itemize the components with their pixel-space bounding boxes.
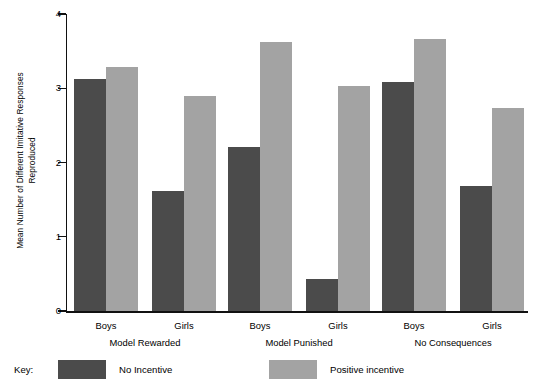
plot-area: 01234 [66,14,528,311]
bar-no-consequences-girls-positive-incentive [492,108,524,311]
y-tick-label: 1 [56,232,61,242]
chart-legend: Key: No IncentivePositive incentive [14,360,524,384]
bar-model-rewarded-girls-positive-incentive [184,96,216,311]
y-tick-label: 3 [56,83,61,93]
legend-key-label: Key: [14,365,33,375]
bar-model-punished-boys-no-incentive [228,147,260,311]
legend-item-no-incentive: No Incentive [58,360,172,379]
x-axis-group-label: No Consequences [414,338,491,347]
bar-model-punished-boys-positive-incentive [260,42,292,311]
bar-no-consequences-boys-positive-incentive [414,39,446,311]
x-axis-group-label: Model Rewarded [110,338,181,347]
x-axis-subcategory-label: Boys [96,321,117,330]
legend-label: No Incentive [119,365,172,375]
bar-no-consequences-boys-no-incentive [382,82,414,311]
y-axis-label-line-2: Reproduced [26,72,38,249]
bar-no-consequences-girls-no-incentive [460,186,492,311]
bar-model-punished-girls-no-incentive [306,279,338,311]
legend-swatch [58,360,106,379]
x-axis-subcategory-label: Boys [250,321,271,330]
legend-item-positive-incentive: Positive incentive [269,360,404,379]
legend-label: Positive incentive [330,365,404,375]
bar-model-rewarded-boys-positive-incentive [106,67,138,311]
y-tick-label: 4 [56,9,61,19]
y-axis-label-line-1: Mean Number of Different Imitative Respo… [15,72,27,249]
x-axis-subcategory-label: Girls [174,321,193,330]
bar-chart: Mean Number of Different Imitative Respo… [0,0,536,391]
y-tick-label: 2 [56,158,61,168]
x-axis-subcategory-label: Girls [482,321,501,330]
x-axis-subcategory-label: Boys [404,321,425,330]
legend-swatch [269,360,317,379]
bar-model-rewarded-boys-no-incentive [74,79,106,311]
y-axis-line [66,14,67,311]
bar-model-punished-girls-positive-incentive [338,86,370,311]
x-axis-group-label: Model Punished [265,338,332,347]
y-tick-label: 0 [56,306,61,316]
bar-model-rewarded-girls-no-incentive [152,191,184,311]
y-axis-label: Mean Number of Different Imitative Respo… [4,0,48,320]
x-axis-line [66,311,528,313]
x-axis-subcategory-label: Girls [328,321,347,330]
